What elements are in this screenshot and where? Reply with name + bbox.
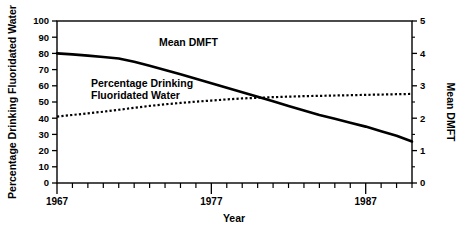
x-tick-label: 1967 [46,196,69,207]
y-axis-left-tick-labels: 0102030405060708090100 [33,15,49,188]
y-axis-left-ticks [52,21,57,183]
plot-frame [57,21,412,183]
y-tick-label-left: 60 [38,80,49,91]
y-tick-label-left: 20 [38,145,49,156]
annotation-percentage-line1: Percentage Drinking [91,77,193,89]
annotation-mean-dmft: Mean DMFT [159,36,219,48]
y-axis-right-tick-labels: 012345 [420,15,426,188]
y2-tick-label: 0 [420,177,425,188]
y2-tick-label: 5 [420,15,426,26]
y-tick-label-left: 10 [38,161,49,172]
y-axis-left-title: Percentage Drinking Fluoridated Water [6,5,18,199]
y-tick-label-left: 100 [33,15,49,26]
annotation-percentage-line2: Fluoridated Water [91,89,180,101]
x-axis-tick-labels: 196719771987 [46,196,377,207]
y-axis-right-title: Mean DMFT [445,83,457,143]
y2-tick-label: 3 [420,80,425,91]
y-tick-label-left: 30 [38,129,49,140]
dual-axis-line-chart: 0102030405060708090100 012345 1967197719… [0,0,457,235]
y-tick-label-left: 0 [44,177,49,188]
x-tick-label: 1987 [355,196,378,207]
y2-tick-label: 4 [420,48,426,59]
x-axis-title: Year [223,212,245,224]
chart-figure: 0102030405060708090100 012345 1967197719… [0,0,457,235]
y2-tick-label: 1 [420,145,426,156]
x-tick-label: 1977 [200,196,223,207]
y-tick-label-left: 90 [38,32,49,43]
x-axis-ticks [57,183,412,194]
y-tick-label-left: 70 [38,64,49,75]
y-tick-label-left: 40 [38,113,49,124]
y-tick-label-left: 80 [38,48,49,59]
y-tick-label-left: 50 [38,96,49,107]
y-axis-right-ticks [412,21,417,183]
y2-tick-label: 2 [420,113,425,124]
